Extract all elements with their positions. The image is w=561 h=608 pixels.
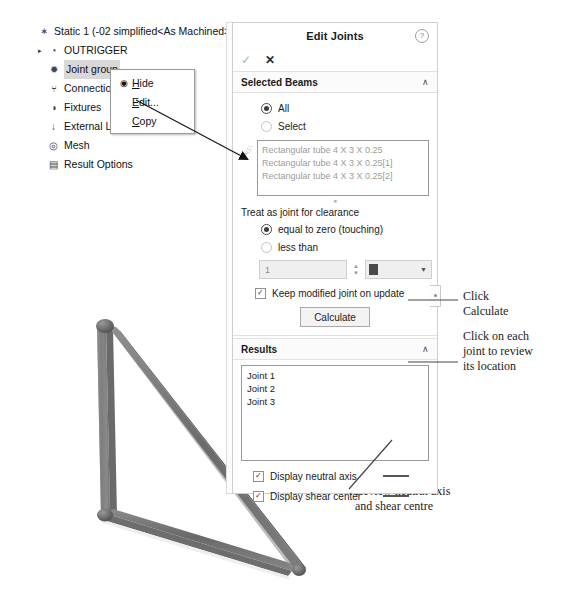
joint-list-item[interactable]: Joint 1 [247, 369, 423, 382]
beam-bottom [100, 509, 300, 580]
calculate-row: Calculate [233, 303, 437, 333]
display-shear-center-label: Display shear center [270, 491, 361, 502]
joint-select-icon: ☄ [239, 140, 257, 159]
beam-list-item[interactable]: Rectangular tube 4 X 3 X 0.25[1] [262, 157, 424, 170]
clearance-label: Treat as joint for clearance [233, 205, 437, 220]
section-header-results[interactable]: Results ∧ [233, 338, 437, 360]
joint-list-item[interactable]: Joint 2 [247, 382, 423, 395]
section-title: Selected Beams [241, 77, 318, 88]
selected-beams-list[interactable]: Rectangular tube 4 X 3 X 0.25Rectangular… [257, 140, 429, 196]
keep-modified-row[interactable]: ✓ Keep modified joint on update [233, 283, 437, 303]
chevron-down-icon[interactable]: ▼ [420, 266, 431, 273]
calculate-button[interactable]: Calculate [300, 307, 370, 327]
joint-list-item[interactable]: Joint 3 [247, 395, 423, 408]
page-title: Edit Joints [306, 30, 363, 42]
radio-all[interactable] [261, 103, 272, 114]
panel-title-bar: Edit Joints ? [233, 23, 437, 49]
radio-row-all[interactable]: All [233, 99, 437, 117]
spinner-up-icon[interactable]: ▲ [353, 263, 359, 270]
unit-combobox[interactable]: ▼ [365, 260, 432, 279]
radio-row-equal-zero[interactable]: equal to zero (touching) [233, 220, 437, 238]
radio-all-label: All [278, 103, 289, 114]
menu-item-hide[interactable]: ◉Hide [111, 73, 194, 92]
menu-item-edit[interactable]: Edit... [111, 92, 194, 111]
close-icon[interactable]: ✕ [265, 53, 275, 67]
keep-modified-checkbox[interactable]: ✓ [255, 288, 266, 299]
side-tab-dot [434, 294, 437, 297]
radio-equal-to-zero[interactable] [261, 224, 272, 235]
radio-less-than[interactable] [261, 242, 272, 253]
edit-joints-property-manager: Edit Joints ? ✓ ✕ Selected Beams ∧ All S… [232, 22, 438, 494]
shear-center-legend-line [383, 495, 409, 497]
radio-row-select[interactable]: Select [233, 117, 437, 135]
spinner-down-icon[interactable]: ▼ [353, 270, 359, 277]
clearance-value-row: 1 ▲ ▼ ▼ [233, 256, 437, 279]
clearance-spinner[interactable]: 1 [259, 260, 347, 279]
radio-row-less-than[interactable]: less than [233, 238, 437, 256]
display-shear-center-checkbox[interactable]: ✓ [253, 491, 264, 502]
context-menu[interactable]: ◉HideEdit...Copy [110, 69, 195, 134]
radio-select-label: Select [278, 121, 306, 132]
neutral-axis-legend-line [383, 475, 409, 477]
panel-action-bar: ✓ ✕ [233, 49, 437, 72]
section-header-selected-beams[interactable]: Selected Beams ∧ [233, 72, 437, 93]
menu-item-label: Hide [132, 77, 154, 89]
joint-node-bottom-right [292, 564, 306, 576]
beam-list-item[interactable]: Rectangular tube 4 X 3 X 0.25 [262, 144, 424, 157]
menu-item-label: Edit... [132, 96, 159, 108]
display-neutral-axis-checkbox[interactable]: ✓ [253, 471, 264, 482]
keep-modified-label: Keep modified joint on update [272, 288, 404, 299]
display-neutral-axis-label: Display neutral axis [270, 471, 357, 482]
neutral-axis-row[interactable]: ✓ Display neutral axis [233, 466, 437, 486]
help-icon[interactable]: ? [415, 29, 429, 43]
section-title: Results [241, 344, 277, 355]
divider [233, 335, 437, 336]
beam-list-item[interactable]: Rectangular tube 4 X 3 X 0.25[2] [262, 170, 424, 183]
joint-node-bottom-left [97, 509, 113, 522]
eye-icon: ◉ [115, 78, 132, 88]
beam-vertical [97, 324, 117, 516]
menu-item-copy[interactable]: Copy [111, 111, 194, 130]
clearance-value: 1 [260, 265, 270, 275]
radio-select[interactable] [261, 121, 272, 132]
radio-equal-to-zero-label: equal to zero (touching) [278, 224, 383, 235]
property-manager-side-tab[interactable] [430, 285, 441, 307]
spinner-arrows[interactable]: ▲ ▼ [353, 261, 359, 278]
chevron-up-icon[interactable]: ∧ [422, 77, 429, 87]
unit-swatch-icon [369, 264, 378, 275]
accept-icon[interactable]: ✓ [241, 53, 251, 67]
results-joint-list[interactable]: Joint 1Joint 2Joint 3 [241, 365, 429, 461]
menu-item-label: Copy [132, 115, 157, 127]
beam-selection-row: ☄ Rectangular tube 4 X 3 X 0.25Rectangul… [233, 135, 437, 196]
shear-center-row[interactable]: ✓ Display shear center [233, 486, 437, 506]
list-resize-grip[interactable]: ● [233, 196, 437, 205]
chevron-up-icon[interactable]: ∧ [422, 344, 429, 354]
radio-less-than-label: less than [278, 242, 318, 253]
joint-node-top [96, 319, 114, 333]
